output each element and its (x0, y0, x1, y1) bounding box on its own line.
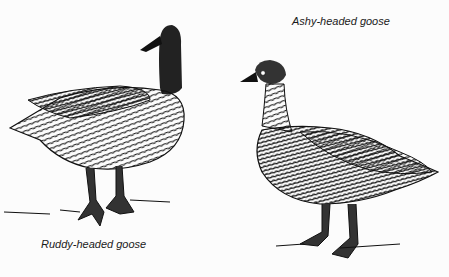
ruddy-goose-neck (159, 25, 182, 94)
ashy-goose-eye (261, 71, 266, 76)
caption-ruddy-headed-goose: Ruddy-headed goose (41, 238, 146, 250)
ashy-goose-ground (276, 244, 400, 248)
illustration-canvas: Ashy-headed goose Ruddy-headed goose (0, 0, 449, 277)
ashy-goose-bill (240, 72, 258, 82)
ashy-goose-leg-right (332, 204, 358, 258)
ashy-goose-head (255, 60, 286, 84)
ashy-headed-goose-drawing (240, 60, 438, 258)
goose-drawings (0, 0, 449, 277)
ruddy-headed-goose-drawing (4, 25, 184, 226)
ruddy-goose-leg-left (78, 168, 104, 226)
ashy-goose-neck (262, 84, 292, 132)
ashy-goose-leg-left (300, 204, 330, 246)
ruddy-goose-bill (140, 36, 162, 52)
ruddy-goose-leg-right (106, 166, 134, 214)
caption-ashy-headed-goose: Ashy-headed goose (292, 15, 390, 27)
